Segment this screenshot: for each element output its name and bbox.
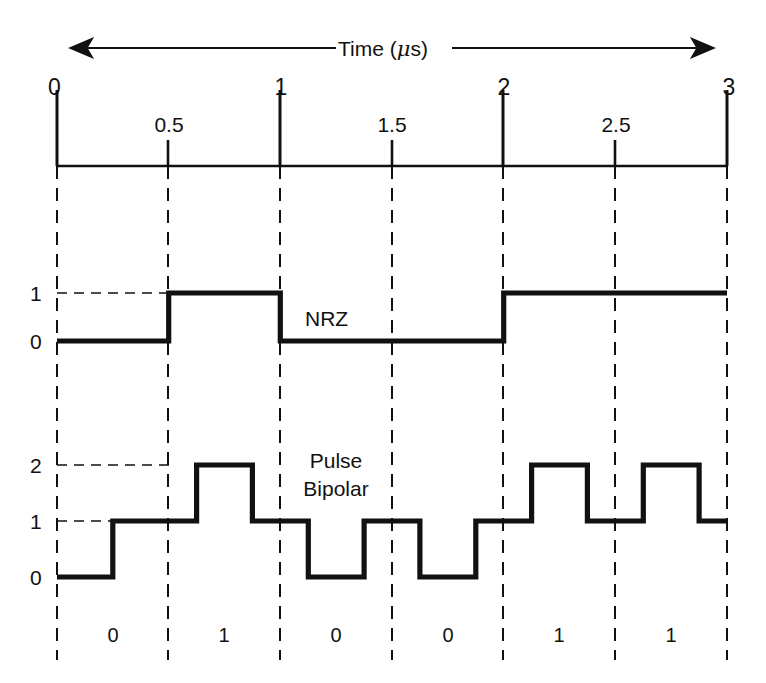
tick-label-1: 1 xyxy=(275,76,288,99)
bipolar-signal-label-line2: Bipolar xyxy=(303,478,368,499)
bit-label-4: 1 xyxy=(553,625,564,645)
bit-label-0: 0 xyxy=(107,625,118,645)
tick-label-0-5: 0.5 xyxy=(154,114,183,135)
tick-label-2-5: 2.5 xyxy=(601,114,630,135)
bit-label-3: 0 xyxy=(442,625,453,645)
nrz-ylabel-0: 0 xyxy=(30,331,42,352)
bit-label-1: 1 xyxy=(218,625,229,645)
mu-symbol: μ xyxy=(397,37,411,61)
bipolar-ylabel-2: 2 xyxy=(30,455,42,476)
waveform-diagram: Time (μs) 0 1 2 3 0.5 1.5 2.5 1 0 NRZ 2 … xyxy=(0,0,766,683)
tick-label-0: 0 xyxy=(48,76,61,99)
bipolar-ylabel-0: 0 xyxy=(30,567,42,588)
tick-label-3: 3 xyxy=(723,76,736,99)
bit-label-2: 0 xyxy=(330,625,341,645)
pulse-bipolar-waveform-trace xyxy=(57,465,727,577)
nrz-signal-label: NRZ xyxy=(305,308,348,329)
bipolar-signal-label-line1: Pulse xyxy=(310,450,363,471)
axis-title: Time (μs) xyxy=(338,38,428,60)
tick-label-2: 2 xyxy=(498,76,511,99)
tick-label-1-5: 1.5 xyxy=(377,114,406,135)
bipolar-ylabel-1: 1 xyxy=(30,511,42,532)
nrz-waveform-trace xyxy=(57,293,727,341)
waveform-traces-layer xyxy=(0,0,766,683)
bit-label-5: 1 xyxy=(665,625,676,645)
nrz-ylabel-1: 1 xyxy=(30,283,42,304)
